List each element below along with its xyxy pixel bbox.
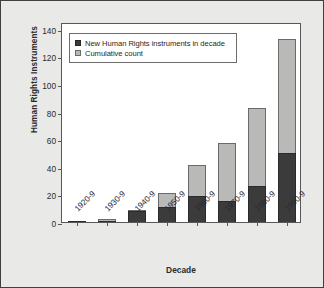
- y-axis-tick-mark: [58, 58, 62, 59]
- y-axis-tick-label: 0: [24, 219, 56, 229]
- bar-segment-cumulative: [188, 165, 206, 195]
- x-axis-tick-mark: [287, 222, 288, 226]
- y-axis-tick-label: 40: [24, 164, 56, 174]
- y-axis-tick-label: 100: [24, 81, 56, 91]
- legend-label-cumulative-count: Cumulative count: [85, 49, 143, 58]
- x-axis-tick-mark: [167, 222, 168, 226]
- y-axis-tick-mark: [58, 114, 62, 115]
- y-axis-tick-label: 20: [24, 191, 56, 201]
- y-axis-tick-label: 80: [24, 109, 56, 119]
- chart-figure: Human Rights Instruments 020406080100120…: [0, 0, 324, 288]
- chart-legend: New Human Rights instruments in decade C…: [69, 33, 237, 63]
- bar-segment-cumulative: [248, 108, 266, 187]
- x-axis-tick-mark: [197, 222, 198, 226]
- bar-segment-new-instruments: [128, 211, 146, 222]
- legend-item-new-instruments: New Human Rights instruments in decade: [75, 38, 231, 48]
- y-axis-tick-mark: [58, 196, 62, 197]
- y-axis-tick-mark: [58, 224, 62, 225]
- legend-swatch-light-icon: [75, 50, 81, 56]
- y-axis-tick-label: 140: [24, 26, 56, 36]
- legend-item-cumulative-count: Cumulative count: [75, 48, 231, 58]
- bar-segment-cumulative: [278, 39, 296, 153]
- legend-label-new-instruments: New Human Rights instruments in decade: [85, 39, 225, 48]
- x-axis-tick-mark: [137, 222, 138, 226]
- bar-1960-9: [188, 165, 206, 222]
- x-axis-tick-mark: [227, 222, 228, 226]
- bar-segment-cumulative: [218, 143, 236, 201]
- x-axis-title: Decade: [61, 265, 301, 275]
- y-axis-tick-mark: [58, 31, 62, 32]
- bar-1990-9: [278, 39, 296, 222]
- x-axis-tick-mark: [77, 222, 78, 226]
- x-axis-tick-mark: [107, 222, 108, 226]
- legend-swatch-dark-icon: [75, 40, 81, 46]
- y-axis-tick-label: 120: [24, 53, 56, 63]
- y-axis-tick-mark: [58, 141, 62, 142]
- y-axis-tick-mark: [58, 169, 62, 170]
- y-axis-tick-mark: [58, 86, 62, 87]
- y-axis-tick-label: 60: [24, 136, 56, 146]
- x-axis-tick-mark: [257, 222, 258, 226]
